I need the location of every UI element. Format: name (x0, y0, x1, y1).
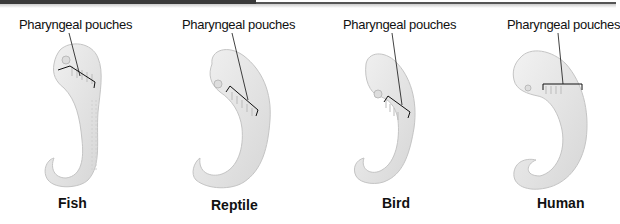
fish-embryo (45, 33, 101, 187)
label-pharyngeal-pouches-bird: Pharyngeal pouches (343, 17, 456, 32)
caption-bird: Bird (382, 195, 410, 211)
reptile-embryo (193, 33, 270, 188)
label-pharyngeal-pouches-reptile: Pharyngeal pouches (182, 17, 295, 32)
human-embryo (513, 33, 587, 189)
caption-reptile: Reptile (211, 197, 258, 213)
label-pharyngeal-pouches-human: Pharyngeal pouches (507, 17, 620, 32)
caption-human: Human (537, 195, 584, 211)
label-pharyngeal-pouches-fish: Pharyngeal pouches (19, 17, 132, 32)
caption-fish: Fish (58, 195, 87, 211)
bird-embryo (354, 33, 415, 183)
